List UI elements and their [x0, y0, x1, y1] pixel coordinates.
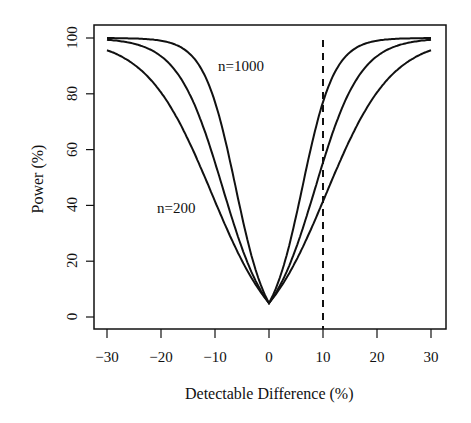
power-curve-n500 [107, 40, 431, 303]
annotation-n200: n=200 [157, 200, 195, 217]
x-tick-label: 20 [357, 349, 397, 366]
x-tick-label: 0 [249, 349, 289, 366]
power-curve-n1000 [107, 38, 431, 303]
power-curve-n200 [107, 50, 431, 303]
y-tick-label: 0 [64, 297, 81, 337]
x-tick-label: −10 [195, 349, 235, 366]
y-tick-label: 40 [64, 185, 81, 225]
y-tick-label: 20 [64, 241, 81, 281]
annotation-n1000: n=1000 [218, 58, 264, 75]
y-axis-ticks [86, 38, 94, 317]
x-tick-label: −20 [141, 349, 181, 366]
x-tick-label: −30 [87, 349, 127, 366]
plot-frame [94, 25, 446, 329]
x-tick-label: 10 [303, 349, 343, 366]
power-curves [107, 38, 431, 303]
y-tick-label: 60 [64, 129, 81, 169]
x-tick-label: 30 [411, 349, 451, 366]
x-axis-label: Detectable Difference (%) [185, 385, 353, 403]
y-axis-label: Power (%) [29, 129, 47, 229]
x-axis-ticks [107, 329, 431, 338]
y-tick-label: 100 [64, 18, 81, 58]
y-tick-label: 80 [64, 73, 81, 113]
